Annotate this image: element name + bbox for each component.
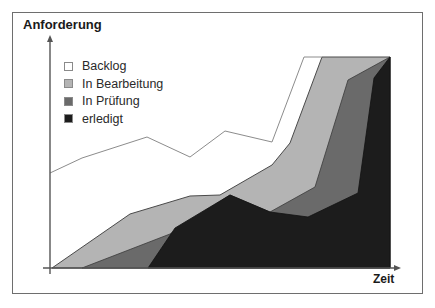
legend-label: Backlog	[82, 59, 126, 73]
legend-item-in-pruefung: In Prüfung	[64, 93, 163, 109]
swatch-icon	[64, 114, 73, 123]
legend-item-erledigt: erledigt	[64, 111, 163, 127]
swatch-icon	[64, 79, 73, 88]
legend-label: In Prüfung	[82, 94, 140, 108]
x-axis-label: Zeit	[373, 272, 394, 286]
legend-label: erledigt	[82, 112, 123, 126]
legend-label: In Bearbeitung	[82, 77, 163, 91]
swatch-icon	[64, 62, 73, 71]
y-axis-label: Anforderung	[23, 17, 102, 32]
swatch-icon	[64, 97, 73, 106]
legend: Backlog In Bearbeitung In Prüfung erledi…	[64, 58, 163, 128]
legend-item-in-bearbeitung: In Bearbeitung	[64, 76, 163, 92]
legend-item-backlog: Backlog	[64, 58, 163, 74]
cumulative-flow-chart	[0, 0, 435, 308]
y-axis-arrow-icon	[47, 35, 53, 42]
x-axis-arrow-icon	[394, 265, 401, 271]
